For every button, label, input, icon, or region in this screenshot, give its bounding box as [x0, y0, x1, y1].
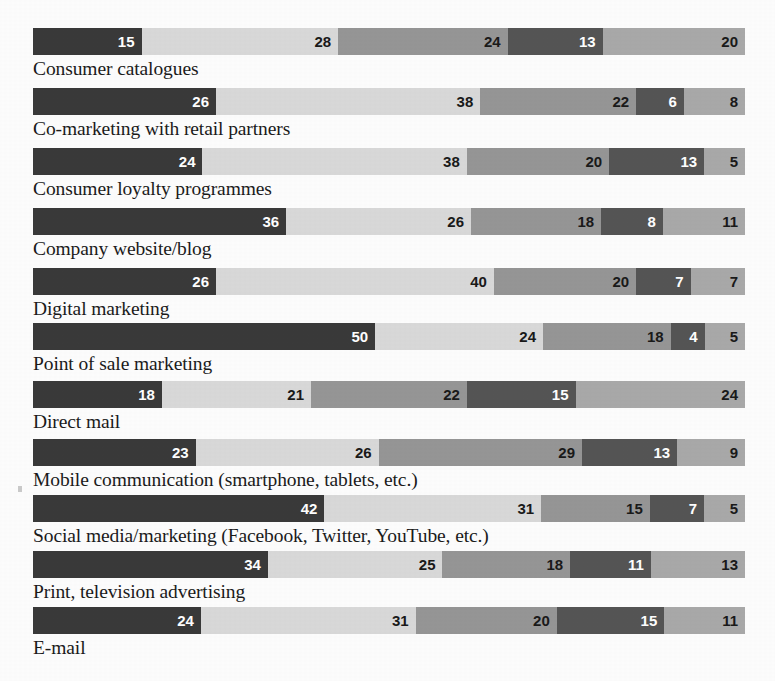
category-label: Digital marketing	[33, 298, 169, 320]
bar-segment: 5	[705, 323, 746, 350]
bar-segment: 13	[609, 148, 704, 175]
segment-value-label: 50	[351, 329, 368, 344]
bar-track: 243820135	[33, 148, 745, 175]
bar-segment: 5	[704, 495, 745, 522]
segment-value-label: 15	[118, 34, 135, 49]
bar-segment: 24	[33, 607, 201, 634]
segment-value-label: 8	[730, 94, 738, 109]
bar-segment: 20	[603, 28, 745, 55]
segment-value-label: 26	[447, 214, 464, 229]
bar-segment: 20	[467, 148, 609, 175]
segment-value-label: 24	[179, 154, 196, 169]
segment-value-label: 31	[392, 613, 409, 628]
category-label: Print, television advertising	[33, 581, 245, 603]
bar-segment: 26	[286, 208, 471, 235]
bar-segment: 11	[663, 208, 745, 235]
segment-value-label: 4	[689, 329, 697, 344]
bar-segment: 23	[33, 439, 196, 466]
segment-value-label: 36	[263, 214, 280, 229]
segment-value-label: 24	[519, 329, 536, 344]
bar-segment: 38	[216, 88, 480, 115]
segment-value-label: 8	[647, 214, 655, 229]
segment-value-label: 26	[355, 445, 372, 460]
segment-value-label: 13	[653, 445, 670, 460]
bar-segment: 9	[677, 439, 745, 466]
bar-segment: 20	[494, 268, 636, 295]
segment-value-label: 18	[647, 329, 664, 344]
category-label: Consumer loyalty programmes	[33, 178, 272, 200]
bar-segment: 24	[375, 323, 543, 350]
bar-segment: 8	[601, 208, 663, 235]
bar-segment: 18	[33, 381, 162, 408]
bar-segment: 24	[576, 381, 745, 408]
bar-segment: 4	[671, 323, 705, 350]
bar-group: 50241845Point of sale marketing	[33, 323, 745, 350]
segment-value-label: 20	[585, 154, 602, 169]
bar-segment: 24	[338, 28, 507, 55]
bar-segment: 20	[416, 607, 557, 634]
bar-track: 1528241320	[33, 28, 745, 55]
bar-track: 50241845	[33, 323, 745, 350]
bar-segment: 15	[541, 495, 650, 522]
scan-artifact-speck	[18, 486, 22, 492]
bar-group: 232629139Mobile communication (smartphon…	[33, 439, 745, 466]
bar-segment: 22	[480, 88, 636, 115]
segment-value-label: 24	[721, 387, 738, 402]
bar-track: 42311575	[33, 495, 745, 522]
segment-value-label: 13	[680, 154, 697, 169]
segment-value-label: 23	[172, 445, 189, 460]
segment-value-label: 24	[484, 34, 501, 49]
bar-segment: 13	[508, 28, 603, 55]
segment-value-label: 15	[641, 613, 658, 628]
segment-value-label: 5	[730, 501, 738, 516]
segment-value-label: 5	[730, 154, 738, 169]
bar-track: 26402077	[33, 268, 745, 295]
segment-value-label: 34	[244, 557, 261, 572]
bar-segment: 34	[33, 551, 268, 578]
category-label: Company website/blog	[33, 238, 211, 260]
bar-segment: 11	[664, 607, 745, 634]
bar-segment: 13	[651, 551, 745, 578]
bar-segment: 26	[196, 439, 379, 466]
bar-group: 3425181113Print, television advertising	[33, 551, 745, 578]
category-label: Mobile communication (smartphone, tablet…	[33, 469, 418, 491]
segment-value-label: 20	[613, 274, 630, 289]
bar-segment: 13	[582, 439, 677, 466]
segment-value-label: 21	[287, 387, 304, 402]
bar-track: 362618811	[33, 208, 745, 235]
bar-segment: 7	[636, 268, 690, 295]
category-label: Social media/marketing (Facebook, Twitte…	[33, 525, 489, 547]
bar-segment: 15	[33, 28, 142, 55]
segment-value-label: 42	[301, 501, 318, 516]
segment-value-label: 18	[138, 387, 155, 402]
segment-value-label: 22	[613, 94, 630, 109]
bar-segment: 7	[650, 495, 704, 522]
bar-segment: 7	[691, 268, 745, 295]
bar-group: 26402077Digital marketing	[33, 268, 745, 295]
bar-group: 1821221524Direct mail	[33, 381, 745, 408]
category-label: Direct mail	[33, 411, 120, 433]
bar-segment: 28	[142, 28, 339, 55]
stacked-bar-chart: 1528241320Consumer catalogues26382268Co-…	[0, 0, 775, 681]
segment-value-label: 31	[518, 501, 535, 516]
bar-group: 26382268Co-marketing with retail partner…	[33, 88, 745, 115]
bar-track: 232629139	[33, 439, 745, 466]
category-label: E-mail	[33, 637, 85, 659]
bar-segment: 18	[543, 323, 671, 350]
bar-segment: 8	[684, 88, 745, 115]
bar-segment: 42	[33, 495, 324, 522]
bar-segment: 40	[216, 268, 494, 295]
bar-group: 2431201511E-mail	[33, 607, 745, 634]
segment-value-label: 13	[579, 34, 596, 49]
bar-segment: 36	[33, 208, 286, 235]
bar-track: 3425181113	[33, 551, 745, 578]
bar-track: 26382268	[33, 88, 745, 115]
segment-value-label: 7	[730, 274, 738, 289]
segment-value-label: 6	[669, 94, 677, 109]
segment-value-label: 22	[443, 387, 460, 402]
bar-segment: 15	[467, 381, 576, 408]
segment-value-label: 18	[546, 557, 563, 572]
bar-segment: 50	[33, 323, 375, 350]
bar-group: 1528241320Consumer catalogues	[33, 28, 745, 55]
segment-value-label: 18	[577, 214, 594, 229]
